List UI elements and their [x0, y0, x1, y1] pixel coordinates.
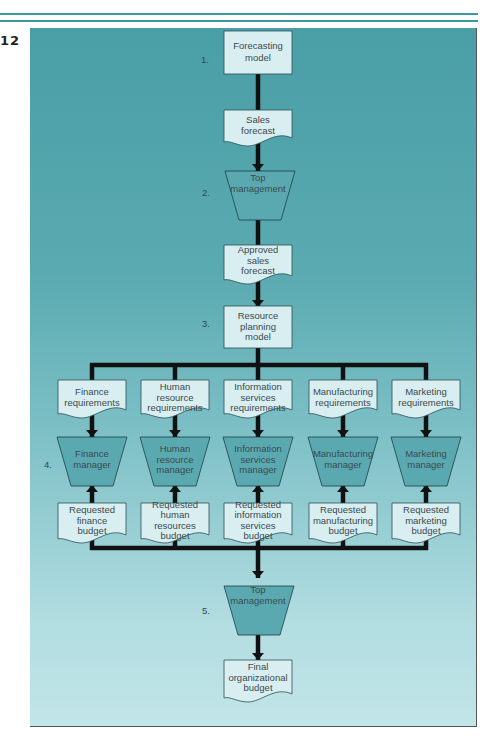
- sales-forecast-label: Sales: [246, 114, 270, 125]
- budget-4-label: marketing: [405, 515, 447, 526]
- requirements-4-label: Marketing: [405, 386, 447, 397]
- manager-2-label: services: [241, 454, 276, 465]
- requirements-2-label: services: [241, 392, 276, 403]
- arrowhead-icon: [252, 164, 264, 171]
- arrowhead-icon: [420, 430, 432, 437]
- final-budget-label: organizational: [228, 672, 287, 683]
- approved-sales-forecast-label: Approved: [238, 244, 279, 255]
- final-budget-label: budget: [243, 682, 272, 693]
- top-management-2-label: Top: [250, 584, 265, 595]
- budget-3-label: manufacturing: [313, 515, 373, 526]
- requirements-0-label: requirements: [64, 397, 120, 408]
- budget-1-label: budget: [160, 530, 189, 541]
- resource-planning-model-label: planning: [240, 321, 276, 332]
- manager-1-label: manager: [156, 464, 194, 475]
- budget-0-label: finance: [77, 515, 108, 526]
- manager-0-label: Finance: [75, 448, 109, 459]
- forecasting-model-label: model: [245, 52, 271, 63]
- arrowhead-icon: [337, 430, 349, 437]
- manager-3-label: manager: [324, 459, 362, 470]
- resource-planning-model-label: model: [245, 331, 271, 342]
- top-management-2-label: management: [230, 595, 286, 606]
- budget-3-label: Requested: [320, 504, 366, 515]
- step-number: 2.: [202, 187, 210, 198]
- requirements-1-label: resource: [157, 392, 194, 403]
- budget-2-label: information: [235, 509, 282, 520]
- manager-4-label: Marketing: [405, 448, 447, 459]
- budget-4-label: budget: [411, 525, 440, 536]
- budget-2-label: budget: [243, 530, 272, 541]
- manager-1-label: Human: [160, 443, 191, 454]
- requirements-1-label: requirements: [147, 402, 203, 413]
- budget-0-label: budget: [77, 525, 106, 536]
- manager-2-label: manager: [239, 464, 277, 475]
- top-management-1-label: management: [230, 183, 286, 194]
- budget-1-label: human: [160, 509, 189, 520]
- budget-4-label: Requested: [403, 504, 449, 515]
- manager-0-label: manager: [73, 459, 111, 470]
- approved-sales-forecast-label: sales: [247, 255, 269, 266]
- resource-planning-model-label: Resource: [238, 310, 279, 321]
- manager-4-label: manager: [407, 459, 445, 470]
- arrowhead-icon: [86, 430, 98, 437]
- manager-1-label: resource: [157, 454, 194, 465]
- manager-2-label: Information: [234, 443, 282, 454]
- manager-3-label: Manufacturing: [313, 448, 373, 459]
- arrowhead-icon: [252, 653, 264, 660]
- requirements-2-label: requirements: [230, 402, 286, 413]
- budget-1-label: Requested: [152, 499, 198, 510]
- budgeting-flowchart: ForecastingmodelSalesforecastTopmanageme…: [0, 0, 498, 753]
- final-budget-label: Final: [248, 661, 269, 672]
- requirements-0-label: Finance: [75, 386, 109, 397]
- requirements-3-label: requirements: [315, 397, 371, 408]
- budget-2-label: Requested: [235, 499, 281, 510]
- step-number: 5.: [202, 605, 210, 616]
- forecasting-model-label: Forecasting: [233, 40, 283, 51]
- requirements-2-label: Information: [234, 381, 282, 392]
- arrowhead-icon: [169, 430, 181, 437]
- approved-sales-forecast-label: forecast: [241, 265, 275, 276]
- requirements-1-label: Human: [160, 381, 191, 392]
- top-management-1-label: Top: [250, 172, 265, 183]
- budget-0-label: Requested: [69, 504, 115, 515]
- budget-3-label: budget: [328, 525, 357, 536]
- arrowhead-icon: [252, 430, 264, 437]
- arrowhead-icon: [252, 571, 264, 578]
- step-number: 4.: [44, 459, 52, 470]
- sales-forecast-label: forecast: [241, 125, 275, 136]
- requirements-3-label: Manufacturing: [313, 386, 373, 397]
- step-number: 1.: [201, 54, 209, 65]
- budget-1-label: resources: [154, 520, 196, 531]
- budget-2-label: services: [241, 520, 276, 531]
- requirements-4-label: requirements: [398, 397, 454, 408]
- step-number: 3.: [202, 318, 210, 329]
